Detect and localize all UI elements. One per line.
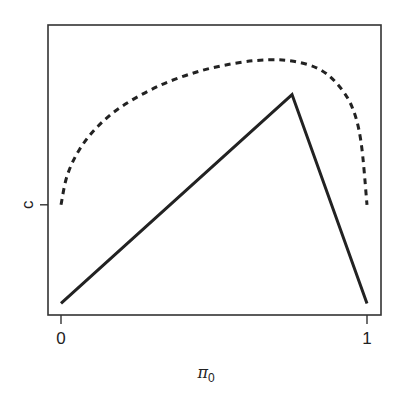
x-tick-label: 1 bbox=[362, 329, 371, 348]
y-tick-label: c bbox=[18, 200, 37, 209]
x-axis-label: π0 bbox=[196, 363, 215, 385]
dashed-line bbox=[61, 60, 367, 205]
chart: 01 c π0 bbox=[0, 0, 404, 401]
x-axis: 01 bbox=[56, 315, 371, 348]
series-layer bbox=[61, 60, 367, 304]
x-tick-label: 0 bbox=[56, 329, 65, 348]
y-axis: c bbox=[18, 200, 48, 209]
solid-line bbox=[61, 95, 367, 304]
